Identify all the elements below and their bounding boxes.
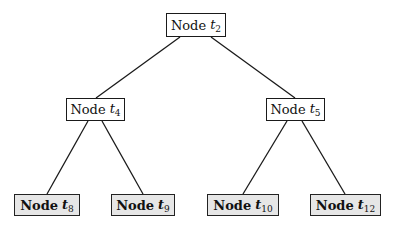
node-label-prefix: Node bbox=[171, 18, 206, 33]
node-symbol: t10 bbox=[255, 197, 272, 214]
node-symbol: t9 bbox=[158, 197, 170, 214]
node-label-prefix: Node bbox=[213, 198, 251, 213]
edge-t5-t12 bbox=[302, 121, 345, 194]
node-symbol: t4 bbox=[110, 101, 121, 118]
node-t2: Node t2 bbox=[166, 13, 226, 37]
node-label-prefix: Node bbox=[20, 198, 58, 213]
leaf-node-t9: Node t9 bbox=[111, 194, 175, 216]
leaf-node-t8: Node t8 bbox=[14, 194, 80, 216]
node-label-prefix: Node bbox=[116, 198, 154, 213]
edge-t4-t9 bbox=[102, 121, 143, 194]
node-label-prefix: Node bbox=[316, 198, 354, 213]
edge-t4-t8 bbox=[47, 121, 88, 194]
node-label-prefix: Node bbox=[270, 102, 305, 117]
node-symbol: t5 bbox=[310, 101, 321, 118]
leaf-node-t10: Node t10 bbox=[207, 194, 279, 216]
node-t4: Node t4 bbox=[66, 98, 125, 121]
edge-t2-t5 bbox=[211, 37, 295, 98]
node-t5: Node t5 bbox=[266, 98, 325, 121]
node-label-prefix: Node bbox=[70, 102, 105, 117]
node-symbol: t8 bbox=[62, 197, 74, 214]
edge-t5-t10 bbox=[243, 121, 287, 194]
edge-t2-t4 bbox=[96, 37, 180, 98]
leaf-node-t12: Node t12 bbox=[310, 194, 381, 216]
node-symbol: t2 bbox=[210, 17, 221, 34]
node-symbol: t12 bbox=[358, 197, 375, 214]
